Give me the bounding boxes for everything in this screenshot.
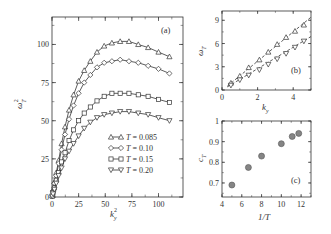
legend-label: T = 0.20 bbox=[126, 166, 153, 175]
x-tick-label: 100 bbox=[153, 200, 165, 209]
triangle-up-marker bbox=[292, 29, 297, 34]
diamond-marker bbox=[118, 57, 123, 62]
square-marker bbox=[67, 138, 71, 142]
y-tick-label: 75 bbox=[41, 79, 49, 88]
panel-b-frame bbox=[222, 11, 311, 90]
diamond-marker bbox=[108, 145, 113, 150]
x-tick-label: 10 bbox=[277, 200, 285, 209]
triangle-up-marker bbox=[167, 54, 172, 59]
diamond-marker bbox=[156, 66, 161, 71]
triangle-up-marker bbox=[237, 73, 242, 78]
panel-a-tag: (a) bbox=[161, 25, 171, 35]
triangle-down-marker bbox=[71, 142, 76, 147]
legend-label: T = 0.085 bbox=[126, 133, 157, 142]
triangle-up-marker bbox=[283, 35, 288, 40]
square-marker bbox=[156, 97, 160, 101]
legend-label: T = 0.10 bbox=[126, 144, 153, 153]
square-marker bbox=[127, 91, 131, 95]
y-tick-label: 6 bbox=[215, 40, 219, 49]
diamond-marker bbox=[102, 60, 107, 65]
diamond-marker bbox=[109, 59, 114, 64]
diamond-marker bbox=[76, 91, 81, 96]
triangle-down-marker bbox=[94, 116, 99, 121]
diamond-marker bbox=[136, 60, 141, 65]
x-tick-label: 0 bbox=[50, 200, 54, 209]
panel-c-ticks: 46810120.70.80.91 bbox=[209, 117, 311, 209]
triangle-down-marker bbox=[275, 57, 280, 62]
data-dot bbox=[245, 164, 251, 170]
x-tick-label: 6 bbox=[240, 200, 244, 209]
triangle-up-marker bbox=[66, 107, 71, 112]
triangle-down-marker bbox=[76, 134, 81, 139]
triangle-up-marker bbox=[156, 49, 161, 54]
triangle-up-marker bbox=[71, 92, 76, 97]
y-tick-label: 0 bbox=[215, 86, 219, 95]
panel-c-xlabel: 1/T bbox=[258, 212, 271, 222]
square-marker bbox=[119, 157, 123, 161]
square-marker bbox=[146, 94, 150, 98]
square-marker bbox=[118, 91, 122, 95]
triangle-up-marker bbox=[102, 43, 107, 48]
diamond-marker bbox=[146, 63, 151, 68]
panel-a-legend: T = 0.085T = 0.10T = 0.15T = 0.20 bbox=[108, 133, 157, 175]
square-marker bbox=[88, 105, 92, 109]
panel-a-xlabel: k2y bbox=[110, 207, 117, 221]
x-tick-label: 4 bbox=[291, 93, 295, 102]
square-marker bbox=[167, 100, 171, 104]
square-marker bbox=[71, 128, 75, 132]
panel-a-plot: 02550751000255075100 (a) T = 0.085T = 0.… bbox=[13, 17, 183, 221]
square-marker bbox=[63, 151, 67, 155]
y-tick-label: 25 bbox=[41, 155, 49, 164]
panel-a-ticks: 02550751000255075100 bbox=[37, 17, 183, 209]
series-line bbox=[52, 112, 169, 197]
triangle-up-marker bbox=[246, 65, 251, 70]
triangle-down-marker bbox=[283, 52, 288, 57]
x-tick-label: 2 bbox=[256, 93, 260, 102]
square-marker bbox=[95, 99, 99, 103]
x-tick-label: 0 bbox=[220, 93, 224, 102]
panel-c-plot: 46810120.70.80.91 (c) 1/T cT bbox=[195, 117, 311, 222]
panel-a-ylabel: ωT2 bbox=[13, 99, 27, 109]
square-marker bbox=[102, 94, 106, 98]
panel-b-tag: (b) bbox=[291, 65, 301, 75]
y-tick-label: 0.7 bbox=[209, 179, 219, 188]
x-tick-label: 75 bbox=[128, 200, 136, 209]
y-tick-label: 50 bbox=[41, 117, 49, 126]
diamond-marker bbox=[118, 145, 123, 150]
y-tick-label: 3 bbox=[215, 63, 219, 72]
panel-b-ylabel: ωT bbox=[195, 46, 207, 56]
x-tick-label: 25 bbox=[75, 200, 83, 209]
square-marker bbox=[110, 91, 114, 95]
panel-b-plot: 0240369 (b) ky ωT bbox=[195, 11, 311, 114]
data-dot bbox=[259, 153, 265, 159]
y-tick-label: 0.9 bbox=[209, 138, 219, 147]
triangle-down-marker bbox=[167, 119, 172, 124]
figure: 02550751000255075100 (a) T = 0.085T = 0.… bbox=[0, 0, 331, 234]
panel-b-series bbox=[227, 17, 311, 88]
legend-label: T = 0.15 bbox=[126, 155, 153, 164]
data-dot bbox=[289, 133, 295, 139]
triangle-up-marker bbox=[257, 57, 262, 62]
x-tick-label: 12 bbox=[297, 200, 305, 209]
square-marker bbox=[109, 157, 113, 161]
data-dot bbox=[229, 182, 235, 188]
triangle-down-marker bbox=[266, 62, 271, 67]
panel-b-xlabel: ky bbox=[262, 102, 269, 114]
square-marker bbox=[136, 93, 140, 97]
panel-c-tag: (c) bbox=[291, 175, 301, 185]
triangle-down-marker bbox=[301, 39, 306, 44]
diamond-marker bbox=[126, 59, 131, 64]
series-line bbox=[52, 60, 169, 196]
square-marker bbox=[82, 111, 86, 115]
y-tick-label: 0 bbox=[45, 193, 49, 202]
panel-c-ylabel: cT bbox=[195, 154, 207, 162]
y-tick-label: 0.8 bbox=[209, 158, 219, 167]
y-tick-label: 9 bbox=[215, 16, 219, 25]
y-tick-label: 100 bbox=[37, 40, 49, 49]
triangle-up-marker bbox=[76, 78, 81, 83]
triangle-down-marker bbox=[102, 113, 107, 118]
data-dot bbox=[278, 141, 284, 147]
x-tick-label: 50 bbox=[101, 200, 109, 209]
x-tick-label: 8 bbox=[260, 200, 264, 209]
triangle-up-marker bbox=[82, 68, 87, 73]
